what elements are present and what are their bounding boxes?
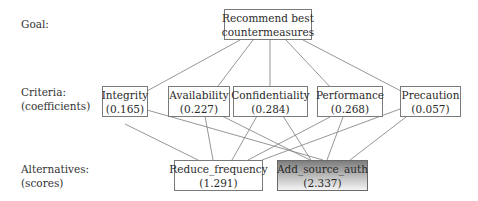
criterion-name: Availability [169, 88, 228, 102]
goal-title-line2: countermeasures [222, 25, 314, 39]
criterion-node-integrity: Integrity (0.165) [102, 86, 148, 117]
goal-node: Recommend best countermeasures [224, 9, 312, 40]
criterion-name: Integrity [102, 88, 149, 102]
alternative-name: Reduce_frequency [169, 162, 267, 176]
criteria-row-sublabel: (coefficients) [21, 100, 90, 113]
criterion-node-precaution: Precaution (0.057) [400, 86, 461, 117]
alternative-name: Add_source_auth [277, 162, 368, 176]
alternatives-row-sublabel: (scores) [21, 177, 63, 190]
criterion-coefficient: (0.057) [411, 102, 449, 116]
ahp-hierarchy-diagram: Goal: Criteria: (coefficients) Alternati… [0, 0, 478, 201]
criteria-row-label: Criteria: [21, 86, 66, 99]
alternative-score: (2.337) [303, 176, 341, 190]
criterion-name: Confidentiality [231, 88, 310, 102]
goal-title-line1: Recommend best [222, 11, 314, 25]
alternatives-row-label: Alternatives: [21, 163, 89, 176]
criterion-node-confidentiality: Confidentiality (0.284) [233, 86, 308, 117]
alternative-node-reduce-frequency: Reduce_frequency (1.291) [174, 160, 263, 191]
goal-row-label: Goal: [21, 18, 49, 31]
criterion-name: Performance [316, 88, 384, 102]
criterion-node-availability: Availability (0.227) [168, 86, 230, 117]
criterion-name: Precaution [402, 88, 460, 102]
criterion-coefficient: (0.227) [180, 102, 218, 116]
criterion-coefficient: (0.268) [331, 102, 369, 116]
criterion-coefficient: (0.165) [106, 102, 144, 116]
alternative-score: (1.291) [199, 176, 237, 190]
criterion-coefficient: (0.284) [251, 102, 289, 116]
alternative-node-add-source-auth-best: Add_source_auth (2.337) [277, 160, 368, 191]
criterion-node-performance: Performance (0.268) [317, 86, 383, 117]
